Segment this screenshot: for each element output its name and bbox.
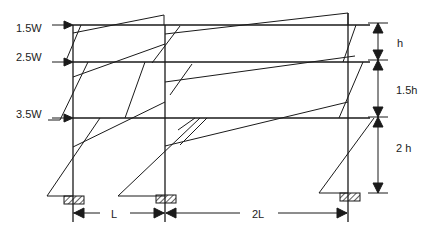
support-middle	[156, 195, 176, 203]
height-label-top: h	[397, 37, 403, 49]
load-label-floor-2: 2.5W	[16, 51, 42, 63]
width-label-left-bay: L	[111, 208, 117, 220]
support-left	[64, 196, 84, 204]
column-moment-diagram	[47, 25, 374, 196]
frame-beams	[73, 25, 370, 118]
beam-moment-diagram	[73, 13, 355, 147]
supports	[64, 193, 360, 204]
support-right	[340, 193, 360, 201]
load-label-floor-1: 3.5W	[16, 108, 42, 120]
height-label-middle: 1.5h	[396, 84, 417, 96]
width-label-right-bay: 2L	[252, 208, 264, 220]
load-arrows	[52, 21, 73, 122]
load-label-roof: 1.5W	[16, 22, 42, 34]
height-label-bottom: 2 h	[396, 142, 411, 154]
frame-moment-diagram: 1.5W 2.5W 3.5W h 1.5h 2 h L 2L	[0, 0, 432, 235]
story-height-dimensions	[368, 23, 388, 193]
